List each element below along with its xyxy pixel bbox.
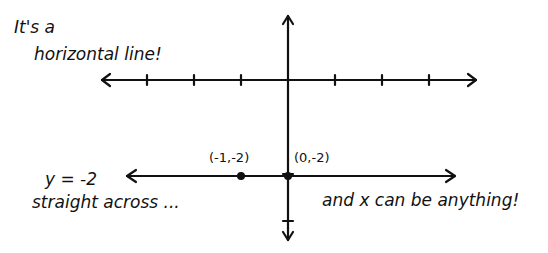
point-label-1: (0,-2) — [294, 150, 330, 165]
horizontal-line-diagram: It's a horizontal line! y = -2 straight … — [0, 0, 548, 253]
point-0 — [237, 172, 245, 180]
straight-across-label: straight across ... — [32, 192, 180, 212]
x-anything-label: and x can be anything! — [322, 190, 519, 210]
title-line-2: horizontal line! — [34, 44, 162, 64]
point-1 — [284, 172, 292, 180]
equation-label: y = -2 — [44, 169, 97, 189]
title-line-1: It's a — [14, 17, 55, 37]
point-label-0: (-1,-2) — [209, 150, 249, 165]
